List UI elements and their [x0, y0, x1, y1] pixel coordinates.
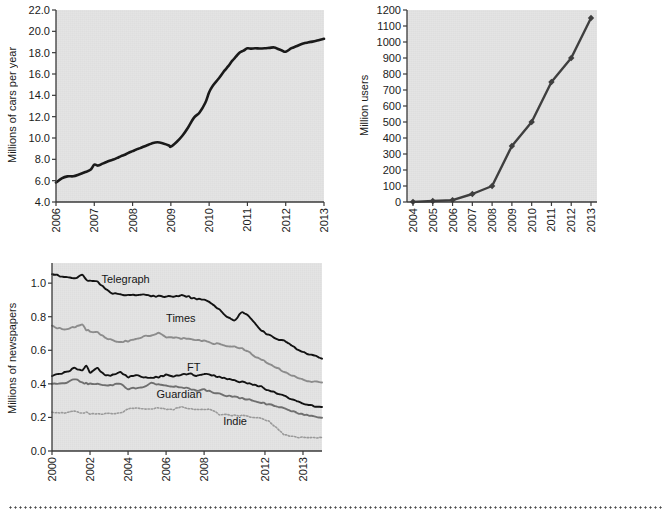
y-axis-tick-label: 6.0: [16, 175, 50, 187]
x-axis-tick-label: 2013: [585, 208, 597, 232]
x-axis-tick-label: 2002: [84, 457, 96, 481]
y-axis-tick-label: 900: [367, 52, 401, 64]
y-axis-tick-label: 16.0: [16, 68, 50, 80]
y-axis-tick-label: 1.0: [12, 277, 46, 289]
x-axis-tick-label: 2008: [127, 208, 139, 232]
y-axis-tick-label: 0.8: [12, 311, 46, 323]
x-axis-tick-label: 2013: [297, 457, 309, 481]
y-axis-tick-label: 0.4: [12, 378, 46, 390]
y-axis-tick-label: 20.0: [16, 25, 50, 37]
y-axis-tick-label: 0.0: [12, 445, 46, 457]
x-axis-tick-label: 2010: [203, 208, 215, 232]
x-axis-tick-label: 2010: [526, 208, 538, 232]
series-label-guardian: Guardian: [157, 388, 202, 400]
chart-newspapers: Millions of newspapers 0.00.20.40.60.81.…: [0, 255, 400, 500]
y-axis-tick-label: 700: [367, 84, 401, 96]
y-axis-tick-label: 400: [367, 132, 401, 144]
chart-million-users: Million users 01002003004005006007008009…: [340, 0, 669, 250]
y-axis-tick-label: 18.0: [16, 47, 50, 59]
x-axis-tick-label: 2000: [46, 457, 58, 481]
y-axis-tick-label: 22.0: [16, 4, 50, 16]
x-axis-tick-label: 2011: [241, 208, 253, 232]
x-axis-tick-label: 2012: [565, 208, 577, 232]
chart-cars-axes: [56, 10, 324, 202]
y-axis-tick-label: 0.2: [12, 411, 46, 423]
y-axis-tick-label: 100: [367, 180, 401, 192]
series-label-indie: Indie: [223, 415, 247, 427]
x-axis-tick-label: 2007: [88, 208, 100, 232]
chart-news-axes: [52, 263, 322, 451]
y-axis-tick-label: 600: [367, 100, 401, 112]
chart-cars-y-axis-label: Millions of cars per year: [6, 10, 20, 200]
x-axis-tick-label: 2007: [466, 208, 478, 232]
y-axis-tick-label: 12.0: [16, 111, 50, 123]
y-axis-tick-label: 14.0: [16, 89, 50, 101]
series-label-times: Times: [166, 312, 196, 324]
x-axis-tick-label: 2006: [160, 457, 172, 481]
x-axis-tick-label: 2009: [506, 208, 518, 232]
x-axis-tick-label: 2008: [198, 457, 210, 481]
y-axis-tick-label: 500: [367, 116, 401, 128]
series-label-ft: FT: [187, 361, 200, 373]
x-axis-tick-label: 2004: [407, 208, 419, 232]
x-axis-tick-label: 2006: [50, 208, 62, 232]
series-label-telegraph: Telegraph: [101, 273, 149, 285]
x-axis-tick-label: 2004: [122, 457, 134, 481]
x-axis-tick-label: 2006: [447, 208, 459, 232]
y-axis-tick-label: 800: [367, 68, 401, 80]
x-axis-tick-label: 2005: [427, 208, 439, 232]
y-axis-tick-label: 200: [367, 164, 401, 176]
chart-news-plot: 0.00.20.40.60.81.0 200020022004200620082…: [52, 263, 322, 451]
y-axis-tick-label: 10.0: [16, 132, 50, 144]
chart-cars-plot: 4.06.08.010.012.014.016.018.020.022.0 20…: [56, 10, 324, 202]
y-axis-tick-label: 1000: [367, 36, 401, 48]
y-axis-tick-label: 0.6: [12, 344, 46, 356]
chart-users-plot: 0100200300400500600700800900100011001200…: [407, 10, 597, 202]
y-axis-tick-label: 4.0: [16, 196, 50, 208]
x-axis-tick-label: 2008: [486, 208, 498, 232]
chart-users-axes: [407, 10, 597, 202]
chart-cars-per-year: Millions of cars per year 4.06.08.010.01…: [0, 0, 340, 250]
y-axis-tick-label: 8.0: [16, 153, 50, 165]
x-axis-tick-label: 2013: [318, 208, 330, 232]
x-axis-tick-label: 2011: [545, 208, 557, 232]
y-axis-tick-label: 1200: [367, 4, 401, 16]
y-axis-tick-label: 300: [367, 148, 401, 160]
y-axis-tick-label: 0: [367, 196, 401, 208]
bottom-dotted-divider: [8, 506, 663, 509]
y-axis-tick-label: 1100: [367, 20, 401, 32]
x-axis-tick-label: 2012: [280, 208, 292, 232]
x-axis-tick-label: 2009: [165, 208, 177, 232]
chart-news-y-axis-label: Millions of newspapers: [6, 263, 20, 453]
x-axis-tick-label: 2012: [259, 457, 271, 481]
